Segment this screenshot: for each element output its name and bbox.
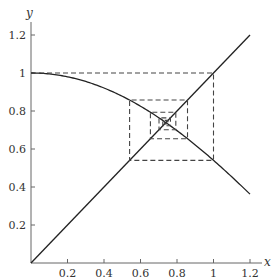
cos-curve [31,73,250,194]
y-tick-label: 0.6 [9,143,27,156]
cobweb-path [31,73,214,160]
x-axis-label: x [264,255,271,269]
x-tick-label: 0.8 [168,267,186,279]
y-tick-label: 1.2 [9,29,27,42]
y-axis-label: y [25,6,33,20]
cobweb-chart: 0.20.40.60.811.20.20.40.60.811.2 x y [0,0,275,279]
y-tick-label: 0.8 [9,105,27,118]
x-tick-label: 0.2 [59,267,77,279]
axis-ticks: 0.20.40.60.811.20.20.40.60.811.2 [9,29,259,279]
y-tick-label: 1 [19,67,26,80]
x-tick-label: 0.4 [95,267,113,279]
x-tick-label: 0.6 [132,267,150,279]
x-tick-label: 1 [210,267,217,279]
y-tick-label: 0.2 [9,219,27,232]
y-tick-label: 0.4 [9,181,27,194]
x-tick-label: 1.2 [241,267,259,279]
plot-series [31,35,250,263]
identity-line [31,35,250,263]
